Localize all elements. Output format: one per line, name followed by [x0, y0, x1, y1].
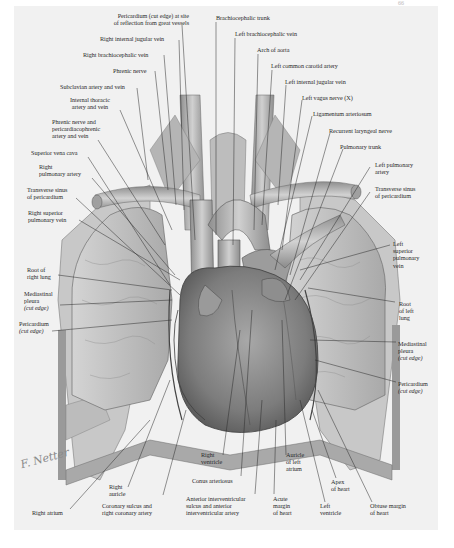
label-apex-of-heart: Apex of heart	[331, 478, 350, 492]
label-auricle-left-atrium: Auricle of left atrium	[286, 451, 304, 473]
label-phrenic-nerve: Phrenic nerve	[113, 67, 147, 74]
label-left-internal-jugular-vein: Left internal jugular vein	[285, 78, 346, 85]
heart	[169, 266, 318, 432]
label-acute-margin: Acute margin of heart	[273, 495, 292, 517]
label-left-ventricle: Left ventricle	[320, 502, 341, 516]
label-right-pulmonary-artery: Right pulmonary artery	[39, 163, 81, 177]
label-conus-arteriosus: Conus arteriosus	[192, 477, 233, 484]
label-obtuse-margin: Obtuse margin of heart	[370, 502, 406, 516]
page-number: 66	[398, 0, 404, 6]
label-recurrent-laryngeal-nerve: Recurrent laryngeal nerve	[329, 127, 392, 134]
label-brachiocephalic-trunk: Brachiocephalic trunk	[216, 14, 270, 21]
label-subclavian-artery-vein: Subclavian artery and vein	[60, 83, 125, 90]
label-mediastinal-pleura-right: Mediastinal pleura (cut edge)	[24, 290, 53, 312]
label-root-left-lung: Root of left lung	[399, 300, 414, 322]
label-mediastinal-pleura-left: Mediastinal pleura (cut edge)	[398, 340, 427, 362]
label-superior-vena-cava: Superior vena cava	[31, 149, 78, 156]
label-arch-of-aorta: Arch of aorta	[257, 46, 289, 53]
label-left-common-carotid-artery: Left common carotid artery	[271, 62, 338, 69]
label-phrenic-pericardiacophrenic: Phrenic nerve and pericardiacophrenic ar…	[52, 118, 100, 140]
label-right-atrium: Right atrium	[32, 509, 63, 516]
label-pericardium-left: Pericardium (cut edge)	[398, 380, 428, 394]
label-right-brachiocephalic-vein: Right brachiocephalic vein	[83, 51, 148, 58]
label-pulmonary-trunk: Pulmonary trunk	[340, 143, 381, 150]
label-left-vagus-nerve: Left vagus nerve (X)	[302, 94, 353, 101]
label-ligamentum-arteriosum: Ligamentum arteriosum	[313, 110, 372, 117]
label-root-right-lung: Root of right lung	[27, 266, 51, 280]
label-transverse-sinus-left: Transverse sinus of pericardium	[375, 185, 415, 199]
label-coronary-sulcus: Coronary sulcus and right coronary arter…	[102, 502, 152, 516]
label-pericardium-reflection: Pericardium (cut edge) at site of reflec…	[114, 12, 189, 26]
label-right-internal-jugular-vein: Right internal jugular vein	[100, 35, 164, 42]
label-right-superior-pulmonary-vein: Right superior pulmonary vein	[28, 209, 66, 223]
label-right-ventricle: Right ventricle	[201, 451, 222, 465]
label-right-auricle: Right auricle	[109, 483, 125, 497]
label-pericardium-right: Pericardium (cut edge)	[19, 320, 49, 334]
label-transverse-sinus-right: Transverse sinus of pericardium	[27, 186, 67, 200]
label-left-brachiocephalic-vein: Left brachiocephalic vein	[235, 30, 297, 37]
label-left-pulmonary-artery: Left pulmonary artery	[375, 161, 413, 175]
label-anterior-interventricular: Anterior interventricular sulcus and ant…	[186, 495, 245, 517]
label-left-superior-pulmonary-vein: Left superior pulmonary vein	[393, 240, 419, 269]
label-internal-thoracic: Internal thoracic artery and vein	[70, 96, 110, 110]
